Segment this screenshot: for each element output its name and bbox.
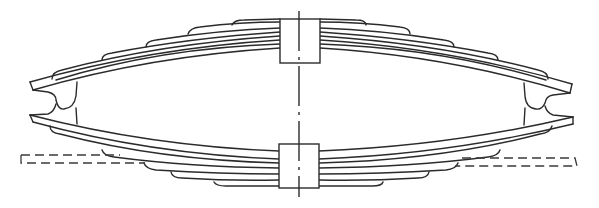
leaf-spring-diagram: Elliptic leaf spring pair (technical lin… (0, 0, 599, 208)
lower-main-leaf-right (319, 117, 573, 151)
upper-clamp (280, 19, 320, 63)
lower-main-leaf-left (30, 115, 279, 151)
